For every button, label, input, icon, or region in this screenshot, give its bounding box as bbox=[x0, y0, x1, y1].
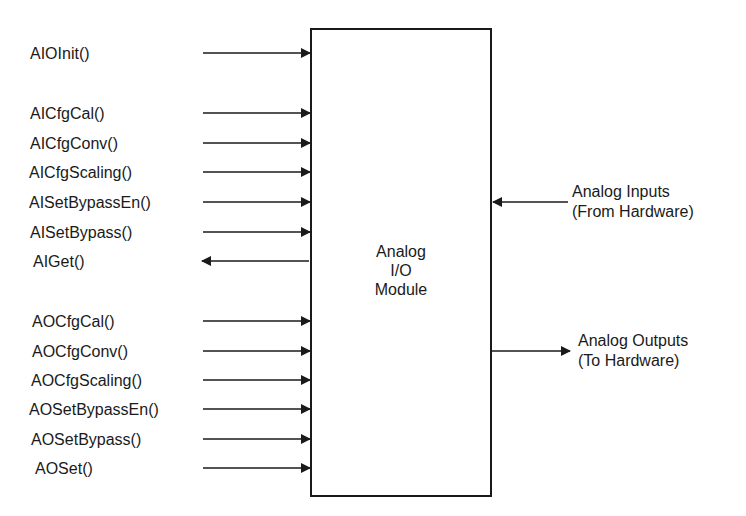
analog-outputs-label: Analog Outputs bbox=[578, 332, 688, 349]
function-label: AICfgCal() bbox=[30, 105, 105, 122]
function-label: AIOInit() bbox=[30, 45, 90, 62]
analog-inputs-label: Analog Inputs bbox=[572, 183, 670, 200]
function-label: AOCfgCal() bbox=[32, 313, 115, 330]
module-label-line-3: Module bbox=[375, 281, 428, 298]
module-label-line-1: Analog bbox=[376, 243, 426, 260]
function-label: AOSetBypass() bbox=[31, 431, 141, 448]
module-label-line-2: I/O bbox=[390, 262, 411, 279]
function-label: AICfgScaling() bbox=[29, 164, 132, 181]
function-label: AOCfgConv() bbox=[32, 343, 128, 360]
function-label: AIGet() bbox=[33, 253, 85, 270]
analog-inputs-sublabel: (From Hardware) bbox=[572, 203, 694, 220]
function-label: AISetBypassEn() bbox=[29, 194, 151, 211]
function-label: AICfgConv() bbox=[30, 135, 118, 152]
analog-outputs-sublabel: (To Hardware) bbox=[578, 352, 679, 369]
function-label: AOCfgScaling() bbox=[31, 372, 142, 389]
function-label: AISetBypass() bbox=[30, 224, 132, 241]
function-label: AOSetBypassEn() bbox=[29, 401, 159, 418]
function-label: AOSet() bbox=[35, 460, 93, 477]
analog-io-diagram: Analog I/O Module AIOInit()AICfgCal()AIC… bbox=[0, 0, 746, 516]
left-functions: AIOInit()AICfgCal()AICfgConv()AICfgScali… bbox=[29, 45, 310, 477]
